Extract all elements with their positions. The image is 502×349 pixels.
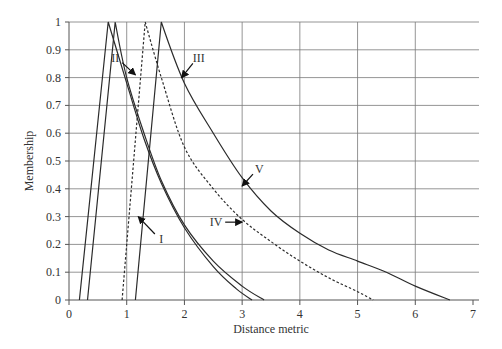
y-tick-label: 1: [55, 15, 61, 29]
x-tick-label: 6: [412, 307, 418, 321]
y-tick-label: 0.9: [46, 43, 61, 57]
x-tick-label: 7: [470, 307, 476, 321]
y-tick-label: 0: [55, 293, 61, 307]
grid-lines: [65, 22, 479, 305]
y-axis-title: Membership: [22, 131, 36, 192]
annotation-arrow-icon: [138, 217, 155, 234]
curve-label-ii: II: [111, 51, 119, 65]
y-tick-label: 0.6: [46, 126, 61, 140]
y-tick-label: 0.8: [46, 71, 61, 85]
curve-label-i: I: [159, 232, 163, 246]
x-tick-label: 5: [355, 307, 361, 321]
membership-chart: 00.10.20.30.40.50.60.70.80.9101234567 II…: [0, 0, 502, 349]
curve-label-v: V: [255, 162, 264, 176]
x-axis-title: Distance metric: [233, 322, 309, 336]
y-tick-label: 0.5: [46, 154, 61, 168]
x-tick-label: 4: [297, 307, 303, 321]
y-tick-label: 0.4: [46, 182, 61, 196]
y-tick-label: 0.2: [46, 237, 61, 251]
x-tick-label: 2: [181, 307, 187, 321]
curve-label-iii: III: [193, 51, 205, 65]
x-tick-label: 0: [66, 307, 72, 321]
x-tick-label: 1: [124, 307, 130, 321]
y-tick-label: 0.1: [46, 265, 61, 279]
annotation-arrow-icon: [182, 63, 193, 77]
curve-label-iv: IV: [210, 215, 223, 229]
x-tick-label: 3: [239, 307, 245, 321]
y-tick-label: 0.7: [46, 98, 61, 112]
y-tick-label: 0.3: [46, 210, 61, 224]
